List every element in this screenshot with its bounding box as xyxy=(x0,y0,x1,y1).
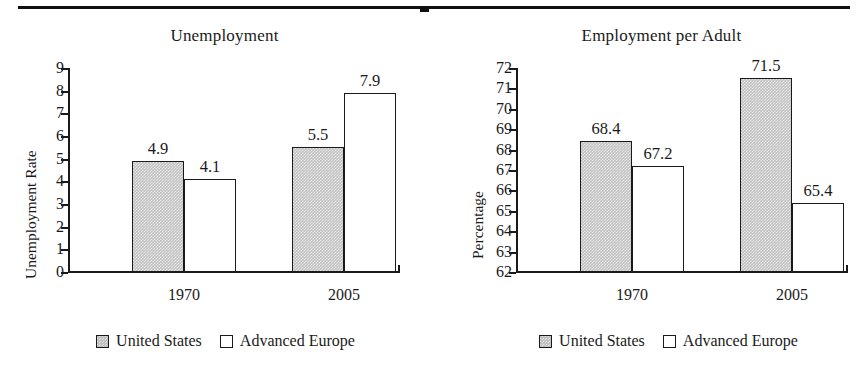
legend-item-united-states: United States xyxy=(539,332,645,350)
y-axis-title-right: Percentage xyxy=(469,191,487,259)
y-axis-tick-label: 71 xyxy=(496,79,512,97)
bar-value-label: 71.5 xyxy=(752,56,781,76)
y-axis-tick-label: 64 xyxy=(496,222,512,240)
legend-label-advanced-europe: Advanced Europe xyxy=(683,332,798,350)
bar-advanced-europe-2005: 7.9 xyxy=(344,93,396,272)
top-horizontal-rule xyxy=(18,6,850,9)
bar-united-states-1970: 68.4 xyxy=(580,141,632,272)
y-axis-line-left xyxy=(68,68,70,273)
y-axis-tick-label: 0 xyxy=(56,263,64,281)
legend-label-united-states: United States xyxy=(116,332,202,350)
legend-item-advanced-europe: Advanced Europe xyxy=(663,332,798,350)
legend-label-advanced-europe: Advanced Europe xyxy=(240,332,355,350)
legend-item-advanced-europe: Advanced Europe xyxy=(220,332,355,350)
bar-advanced-europe-2005: 65.4 xyxy=(792,203,844,272)
x-axis-category-label-1970: 1970 xyxy=(168,286,200,304)
figure-two-panel-bar-charts: Unemployment Unemployment Rate 012345678… xyxy=(0,0,862,391)
plot-area-left: 01234567894.94.119705.57.92005 xyxy=(68,68,400,272)
y-axis-tick-label: 63 xyxy=(496,243,512,261)
chart-title-right: Employment per Adult xyxy=(431,26,862,46)
y-axis-tick-label: 68 xyxy=(496,141,512,159)
x-axis-end-tick-right xyxy=(846,265,848,273)
bar-united-states-1970: 4.9 xyxy=(132,161,184,272)
y-axis-tick-label: 6 xyxy=(56,127,64,145)
x-axis-end-tick-left xyxy=(398,265,400,273)
bar-advanced-europe-1970: 4.1 xyxy=(184,179,236,272)
bar-united-states-2005: 71.5 xyxy=(740,78,792,272)
scan-speck xyxy=(420,7,429,12)
legend-label-united-states: United States xyxy=(559,332,645,350)
bar-value-label: 4.1 xyxy=(200,157,221,177)
y-axis-tick-label: 5 xyxy=(56,150,64,168)
bar-value-label: 7.9 xyxy=(360,71,381,91)
bar-value-label: 67.2 xyxy=(644,144,673,164)
bar-united-states-2005: 5.5 xyxy=(292,147,344,272)
y-axis-line-right xyxy=(516,68,518,273)
x-axis-category-label-2005: 2005 xyxy=(776,286,808,304)
y-axis-tick-label: 66 xyxy=(496,181,512,199)
bar-value-label: 68.4 xyxy=(592,119,621,139)
y-axis-tick-label: 1 xyxy=(56,240,64,258)
legend-item-united-states: United States xyxy=(96,332,202,350)
legend-right: United States Advanced Europe xyxy=(453,332,862,350)
y-axis-tick-label: 70 xyxy=(496,100,512,118)
y-axis-title-left: Unemployment Rate xyxy=(22,150,40,279)
y-axis-tick-label: 8 xyxy=(56,82,64,100)
y-axis-tick-label: 67 xyxy=(496,161,512,179)
y-axis-tick-label: 4 xyxy=(56,172,64,190)
y-axis-tick-label: 7 xyxy=(56,104,64,122)
chart-panel-employment-per-adult: Employment per Adult Percentage 62636465… xyxy=(431,14,862,391)
legend-swatch-advanced-europe-icon xyxy=(220,335,233,348)
y-axis-tick-label: 69 xyxy=(496,120,512,138)
plot-area-right: 626364656667686970717268.467.2197071.565… xyxy=(516,68,848,272)
y-axis-tick-label: 2 xyxy=(56,218,64,236)
legend-left: United States Advanced Europe xyxy=(10,332,441,350)
y-axis-tick-label: 72 xyxy=(496,59,512,77)
legend-swatch-advanced-europe-icon xyxy=(663,335,676,348)
chart-title-left: Unemployment xyxy=(0,26,431,46)
bar-advanced-europe-1970: 67.2 xyxy=(632,166,684,272)
bar-value-label: 4.9 xyxy=(148,139,169,159)
chart-panel-unemployment: Unemployment Unemployment Rate 012345678… xyxy=(0,14,431,391)
y-axis-tick-label: 62 xyxy=(496,263,512,281)
y-axis-tick-label: 65 xyxy=(496,202,512,220)
y-axis-tick-label: 3 xyxy=(56,195,64,213)
bar-value-label: 65.4 xyxy=(804,181,833,201)
bar-value-label: 5.5 xyxy=(308,125,329,145)
y-axis-tick-label: 9 xyxy=(56,59,64,77)
x-axis-category-label-2005: 2005 xyxy=(328,286,360,304)
legend-swatch-united-states-icon xyxy=(539,335,552,348)
x-axis-category-label-1970: 1970 xyxy=(616,286,648,304)
legend-swatch-united-states-icon xyxy=(96,335,109,348)
